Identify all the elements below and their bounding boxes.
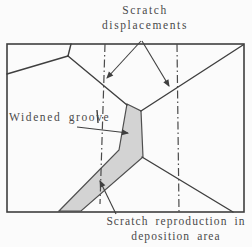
- arrow-displacement-right: [142, 41, 169, 86]
- scratch-trace-right: [177, 44, 179, 212]
- label-scratch-reproduction-line2: deposition area: [131, 230, 220, 242]
- arrow-displacement-left: [107, 41, 141, 78]
- label-widened-groove: Widened groove: [9, 110, 110, 125]
- label-scratch-displacements-line1: Scratch: [122, 4, 168, 16]
- figure-canvas: Scratch displacements Widened groove Scr…: [0, 0, 252, 247]
- label-scratch-displacements: Scratch displacements: [85, 3, 205, 32]
- grain-boundary-upper-right: [141, 45, 243, 111]
- label-scratch-displacements-line2: displacements: [102, 19, 188, 31]
- grain-boundary-to-groove-left: [68, 56, 127, 105]
- label-scratch-reproduction: Scratch reproduction in deposition area: [96, 214, 252, 243]
- label-scratch-reproduction-line1: Scratch reproduction in: [106, 215, 245, 227]
- grain-boundary-top-stub: [68, 44, 71, 56]
- grain-boundary-upper-left: [7, 56, 68, 74]
- grain-boundary-lower-right: [142, 157, 233, 212]
